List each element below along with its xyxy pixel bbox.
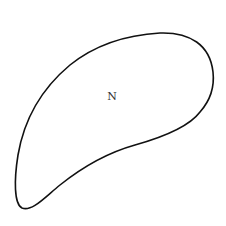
- region-label-n: N: [107, 90, 117, 103]
- region-outline: [15, 33, 213, 209]
- diagram-canvas: N: [0, 0, 226, 226]
